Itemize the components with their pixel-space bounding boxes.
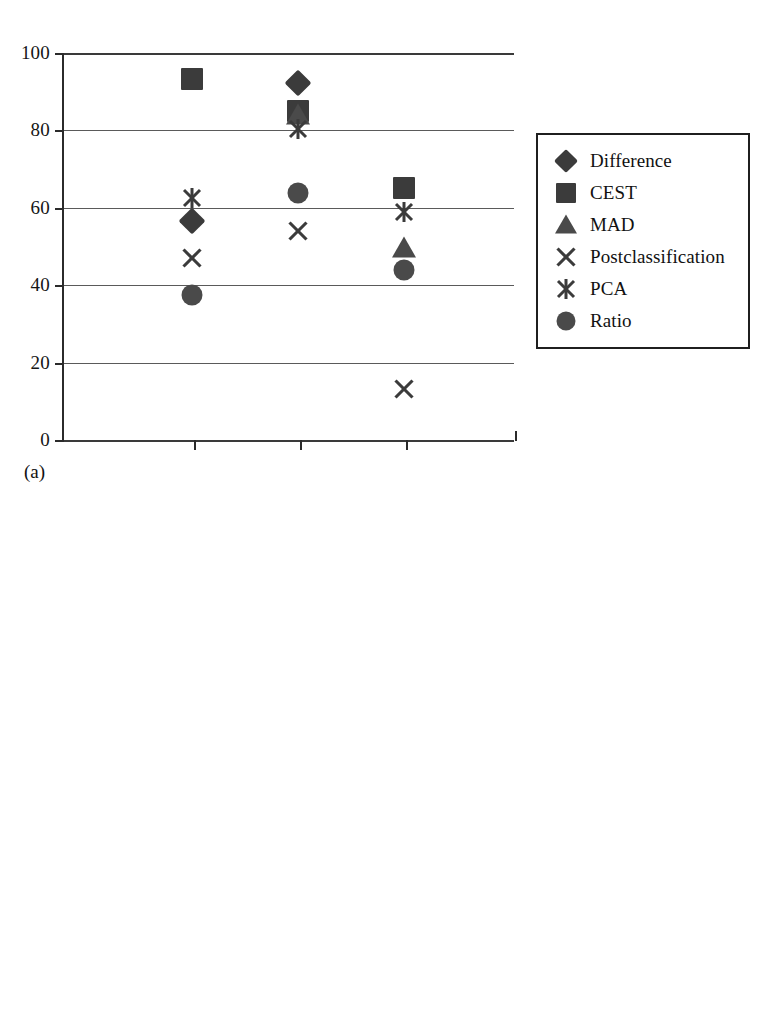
point-ratio-cat1: [181, 284, 202, 305]
point-pca-cat1: [180, 186, 204, 210]
legend-item-pca[interactable]: PCA: [552, 273, 736, 305]
legend-item-label: Difference: [590, 151, 672, 171]
figure-root: 100806040200 DifferenceCESTMADPostclassi…: [0, 0, 777, 1017]
legend-a[interactable]: DifferenceCESTMADPostclassificationPCARa…: [536, 133, 750, 349]
legend-item-label: Postclassification: [590, 247, 725, 267]
legend-item-label: MAD: [590, 215, 635, 235]
legend-triangle-icon-glyph: [555, 215, 577, 234]
y-axis-label-100: 100: [6, 43, 50, 62]
legend-item-mad[interactable]: MAD: [552, 209, 736, 241]
legend-diamond-icon-glyph: [554, 149, 578, 173]
gridline-100: [64, 53, 514, 55]
legend-star-icon-glyph: [554, 277, 578, 301]
x-axis-end-cap: [515, 431, 517, 441]
y-axis-label-60: 60: [6, 198, 50, 217]
legend-circle-icon: [552, 308, 582, 334]
y-axis-label-20: 20: [6, 353, 50, 372]
x-tick-1: [194, 440, 196, 450]
x-tick-3: [406, 440, 408, 450]
y-axis-label-80: 80: [6, 120, 50, 139]
gridline-20: [64, 363, 514, 364]
point-postclassification-cat1: [180, 246, 204, 270]
y-tick-0: [55, 440, 64, 442]
legend-item-postclassification[interactable]: Postclassification: [552, 241, 736, 273]
y-tick-80: [55, 130, 64, 132]
gridline-0: [64, 440, 514, 442]
legend-item-cest[interactable]: CEST: [552, 177, 736, 209]
legend-diamond-icon: [552, 148, 582, 174]
panel-caption-a: (a): [24, 462, 45, 482]
panel-b: 100806040200 DifferenceCESTMADPostclassi…: [0, 510, 777, 1017]
y-axis-label-40: 40: [6, 275, 50, 294]
legend-item-ratio[interactable]: Ratio: [552, 305, 736, 337]
point-postclassification-cat3: [392, 377, 416, 401]
point-postclassification-cat2: [286, 219, 310, 243]
y-tick-60: [55, 208, 64, 210]
point-mad-cat3: [392, 237, 416, 258]
legend-item-label: PCA: [590, 279, 627, 299]
legend-triangle-icon: [552, 212, 582, 238]
y-tick-20: [55, 363, 64, 365]
point-ratio-cat2: [288, 183, 309, 204]
point-pca-cat3: [392, 200, 416, 224]
panel-a: 100806040200 DifferenceCESTMADPostclassi…: [0, 0, 777, 500]
legend-item-difference[interactable]: Difference: [552, 145, 736, 177]
point-cest-cat1: [181, 68, 203, 90]
legend-square-icon-glyph: [556, 183, 576, 203]
y-axis-label-0: 0: [6, 430, 50, 449]
point-pca-cat2: [286, 117, 310, 141]
legend-star-icon: [552, 276, 582, 302]
legend-circle-icon-glyph: [557, 312, 576, 331]
x-tick-2: [300, 440, 302, 450]
point-cest-cat3: [393, 177, 415, 199]
gridline-60: [64, 208, 514, 209]
legend-item-label: CEST: [590, 183, 637, 203]
y-tick-40: [55, 285, 64, 287]
legend-square-icon: [552, 180, 582, 206]
legend-cross-icon-glyph: [554, 245, 578, 269]
point-ratio-cat3: [394, 259, 415, 280]
gridline-40: [64, 285, 514, 286]
legend-cross-icon: [552, 244, 582, 270]
legend-item-label: Ratio: [590, 311, 632, 331]
y-tick-100: [55, 53, 64, 55]
